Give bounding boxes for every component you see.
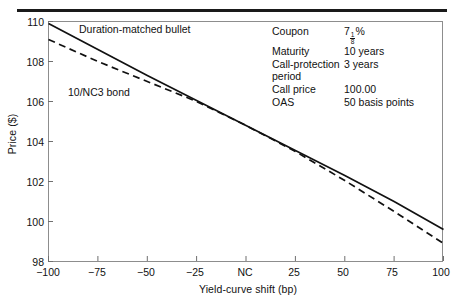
series-annotation-bullet: Duration-matched bullet <box>79 23 190 35</box>
info-row-oas: OAS 50 basis points <box>272 96 414 109</box>
coupon-fraction: 18 <box>350 32 355 45</box>
call-price-label: Call price <box>272 83 344 96</box>
oas-label: OAS <box>272 96 344 109</box>
bond-parameters-info-box: Coupon 718% Maturity 10 years Call-prote… <box>272 25 414 108</box>
call-protection-label-continued: period <box>272 70 414 83</box>
call-protection-label: Call-protection <box>272 58 344 71</box>
info-row-maturity: Maturity 10 years <box>272 45 414 58</box>
info-row-call-price: Call price 100.00 <box>272 83 414 96</box>
coupon-percent-sign: % <box>356 25 365 37</box>
y-axis-ticks <box>48 22 53 262</box>
coupon-whole: 7 <box>344 25 350 37</box>
call-protection-value: 3 years <box>344 58 378 71</box>
coupon-label: Coupon <box>272 25 344 45</box>
figure-root: Price ($) Yield-curve shift (bp) 110 108… <box>0 0 463 307</box>
info-row-coupon: Coupon 718% <box>272 25 414 45</box>
maturity-value: 10 years <box>344 45 384 58</box>
call-price-value: 100.00 <box>344 83 376 96</box>
maturity-label: Maturity <box>272 45 344 58</box>
info-row-call-protection: Call-protection 3 years <box>272 58 414 71</box>
oas-value: 50 basis points <box>344 96 414 109</box>
coupon-value: 718% <box>344 25 365 45</box>
series-annotation-callable: 10/NC3 bond <box>68 86 130 98</box>
x-axis-ticks <box>49 256 444 261</box>
